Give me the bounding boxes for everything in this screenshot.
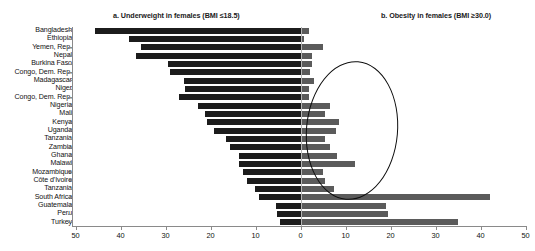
category-tick	[68, 222, 72, 223]
zero-baseline	[301, 27, 302, 226]
axis-tick	[436, 226, 437, 230]
bar-underweight	[205, 111, 300, 117]
axis-tick-label: 40	[116, 231, 124, 240]
axis-tick	[211, 226, 212, 230]
bar-obesity	[301, 153, 338, 159]
bar-obesity	[301, 94, 309, 100]
bar-obesity	[301, 53, 312, 59]
bar-underweight	[170, 69, 301, 75]
bar-obesity	[301, 69, 310, 75]
bar-obesity	[301, 161, 355, 167]
axis-tick-label: 50	[521, 231, 529, 240]
category-tick	[68, 155, 72, 156]
category-tick	[68, 30, 72, 31]
bmi-diverging-bar-chart: a. Underweight in females (BMI ≤18.5) b.…	[0, 0, 535, 251]
bar-obesity	[301, 78, 315, 84]
bar-underweight	[198, 103, 301, 109]
bar-obesity	[301, 219, 459, 225]
category-tick	[68, 164, 72, 165]
category-tick	[68, 205, 72, 206]
bar-obesity	[301, 28, 309, 34]
axis-tick	[121, 226, 122, 230]
bar-obesity	[301, 203, 387, 209]
axis-tick-label: 10	[341, 231, 349, 240]
bar-underweight	[239, 153, 301, 159]
bar-underweight	[214, 128, 300, 134]
category-tick	[68, 64, 72, 65]
category-tick	[68, 80, 72, 81]
bar-obesity	[301, 178, 326, 184]
bar-obesity	[301, 136, 326, 142]
category-tick	[68, 130, 72, 131]
axis-tick	[256, 226, 257, 230]
bar-obesity	[301, 211, 389, 217]
axis-tick	[481, 226, 482, 230]
category-tick	[68, 147, 72, 148]
axis-tick-label: 30	[161, 231, 169, 240]
bar-underweight	[226, 136, 300, 142]
axis-tick-label: 30	[431, 231, 439, 240]
bar-underweight	[277, 211, 300, 217]
category-axis-labels: BangladeshEthiopiaYemen, Rep.NepalBurkin…	[0, 26, 72, 226]
category-tick	[68, 172, 72, 173]
bar-obesity	[301, 111, 326, 117]
category-tick	[68, 197, 72, 198]
category-tick	[68, 114, 72, 115]
axis-tick	[301, 226, 302, 230]
bar-obesity	[301, 194, 490, 200]
category-tick	[68, 72, 72, 73]
bar-underweight	[259, 194, 300, 200]
bar-obesity	[301, 119, 339, 125]
bar-underweight	[95, 28, 301, 34]
category-tick	[68, 47, 72, 48]
axis-tick-label: 20	[386, 231, 394, 240]
bar-underweight	[280, 219, 300, 225]
bar-underweight	[207, 119, 301, 125]
axis-tick	[166, 226, 167, 230]
bar-obesity	[301, 86, 310, 92]
axis-tick	[391, 226, 392, 230]
axis-tick-label: 50	[71, 231, 79, 240]
bar-underweight	[168, 61, 301, 67]
category-tick	[68, 39, 72, 40]
bar-underweight	[243, 169, 301, 175]
axis-tick	[76, 226, 77, 230]
bar-underweight	[141, 44, 301, 50]
bar-obesity	[301, 186, 335, 192]
plot-area	[72, 26, 527, 226]
axis-tick-label: 10	[251, 231, 259, 240]
category-tick	[68, 189, 72, 190]
category-tick	[68, 180, 72, 181]
bar-underweight	[247, 178, 301, 184]
panel-a-title: a. Underweight in females (BMI ≤18.5)	[113, 11, 240, 20]
category-tick	[68, 97, 72, 98]
bar-underweight	[230, 144, 301, 150]
category-tick	[68, 139, 72, 140]
axis-tick	[526, 226, 527, 230]
category-tick	[68, 89, 72, 90]
category-tick	[68, 214, 72, 215]
bar-underweight	[239, 161, 300, 167]
bar-underweight	[276, 203, 301, 209]
category-tick	[68, 122, 72, 123]
value-axis-line	[72, 226, 527, 227]
bar-underweight	[179, 94, 301, 100]
axis-tick-label: 40	[476, 231, 484, 240]
bar-obesity	[301, 169, 324, 175]
category-tick	[68, 55, 72, 56]
bar-underweight	[129, 36, 301, 42]
axis-tick	[346, 226, 347, 230]
category-tick	[68, 105, 72, 106]
bar-obesity	[301, 144, 330, 150]
axis-tick-label: 0	[299, 231, 303, 240]
bar-underweight	[255, 186, 301, 192]
panel-b-title: b. Obesity in females (BMI ≥30.0)	[381, 11, 491, 20]
axis-tick-label: 20	[206, 231, 214, 240]
bar-underweight	[136, 53, 300, 59]
bar-obesity	[301, 128, 336, 134]
bar-underweight	[184, 78, 301, 84]
bar-obesity	[301, 103, 330, 109]
bar-obesity	[301, 61, 312, 67]
bar-obesity	[301, 44, 324, 50]
bar-underweight	[185, 86, 301, 92]
